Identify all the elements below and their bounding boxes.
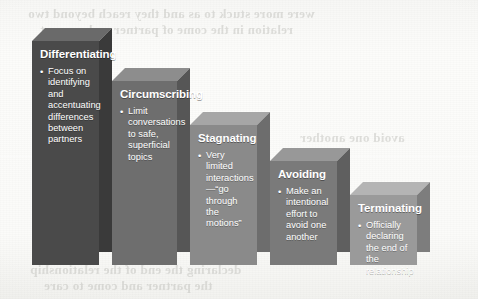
stage-block-side-face (337, 148, 350, 252)
stage-block-front-face: CircumscribingLimit conversations to saf… (112, 81, 177, 265)
stage-block-avoiding: AvoidingMake an intentional effort to av… (270, 148, 350, 265)
stage-block-front-face: TerminatingOfficially declaring the end … (350, 195, 417, 265)
bleed-through-text-middle: avoid one another (300, 130, 405, 146)
stage-block-front-face: StagnatingVery limited interactions—“go … (190, 125, 257, 265)
stage-bullet-item: Officially declaring the end of the rela… (358, 220, 409, 277)
stage-block-differentiating: DifferentiatingFocus on identifying and … (32, 28, 112, 265)
stage-bullet-list: Make an intentional effort to avoid one … (278, 186, 329, 243)
stage-bullet-item: Very limited interactions—“go through th… (198, 150, 249, 230)
stage-bullet-item: Make an intentional effort to avoid one … (278, 186, 329, 243)
stage-block-stagnating: StagnatingVery limited interactions—“go … (190, 112, 270, 265)
stage-title: Differentiating (40, 48, 91, 61)
stage-block-side-face (257, 112, 270, 252)
stage-bullet-item: Focus on identifying and accentuating di… (40, 66, 91, 146)
stage-bullet-item: Limit conversations to safe, superficial… (120, 106, 169, 163)
stage-block-front-face: DifferentiatingFocus on identifying and … (32, 41, 99, 265)
stage-block-circumscribing: CircumscribingLimit conversations to saf… (112, 68, 190, 265)
stage-bullet-list: Limit conversations to safe, superficial… (120, 106, 169, 163)
stage-bullet-list: Officially declaring the end of the rela… (358, 220, 409, 277)
stage-block-front-face: AvoidingMake an intentional effort to av… (270, 161, 337, 265)
diagram-page: were more stuck to as and they reach bey… (0, 0, 478, 299)
stage-block-top-face (112, 68, 190, 81)
stage-block-top-face (190, 112, 270, 125)
bleed-through-text-bottom-2: the partner and come to care (44, 278, 213, 294)
stage-title: Terminating (358, 202, 409, 215)
stage-block-top-face (350, 182, 430, 195)
stage-block-terminating: TerminatingOfficially declaring the end … (350, 182, 430, 265)
stage-block-side-face (99, 28, 112, 252)
bleed-through-text-top-1: were more stuck to as and they reach bey… (28, 6, 315, 22)
stage-title: Avoiding (278, 168, 329, 181)
stage-block-top-face (270, 148, 350, 161)
stage-title: Stagnating (198, 132, 249, 145)
stage-block-top-face (32, 28, 112, 41)
stage-bullet-list: Very limited interactions—“go through th… (198, 150, 249, 230)
stage-title: Circumscribing (120, 88, 169, 101)
stage-bullet-list: Focus on identifying and accentuating di… (40, 66, 91, 146)
